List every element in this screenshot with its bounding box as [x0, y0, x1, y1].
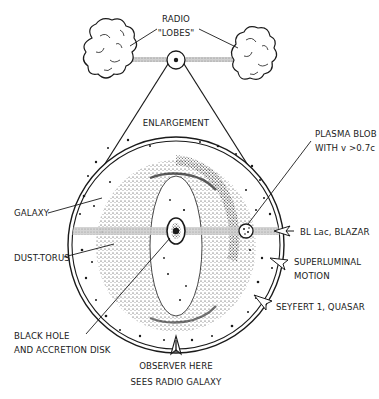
enlargement-label: ENLARGEMENT: [143, 118, 210, 128]
svg-text:SUPERLUMINAL: SUPERLUMINAL: [294, 257, 361, 267]
galaxy-label: GALAXY: [14, 208, 50, 218]
radio-lobes-label: RADIO "LOBES": [158, 14, 195, 38]
plasma-blob: [239, 224, 253, 238]
svg-text:"LOBES": "LOBES": [158, 28, 195, 38]
svg-text:WITH v >0.7c: WITH v >0.7c: [315, 143, 375, 153]
svg-text:BLACK HOLE: BLACK HOLE: [14, 331, 69, 341]
radio-lobes-pointer-right: [199, 29, 238, 48]
radio-lobe-right: [231, 27, 276, 80]
svg-text:RADIO: RADIO: [162, 14, 190, 24]
superluminal-label: SUPERLUMINAL MOTION: [294, 257, 361, 281]
svg-text:SEES RADIO GALAXY: SEES RADIO GALAXY: [131, 377, 223, 387]
torus-inner-cavity: [150, 176, 202, 316]
radio-lobe-left: [83, 19, 136, 78]
dust-torus-label: DUST-TORUS: [14, 253, 70, 263]
svg-text:AND ACCRETION DISK: AND ACCRETION DISK: [14, 345, 111, 355]
observer-label: OBSERVER HERE SEES RADIO GALAXY: [131, 361, 223, 387]
core-circle: [167, 51, 185, 69]
black-hole-label: BLACK HOLE AND ACCRETION DISK: [14, 331, 111, 355]
bl-lac-label: BL Lac, BLAZAR: [300, 227, 370, 237]
svg-text:MOTION: MOTION: [294, 271, 330, 281]
svg-text:PLASMA BLOB: PLASMA BLOB: [315, 129, 377, 139]
black-hole: [167, 218, 185, 244]
seyfert-label: SEYFERT 1, QUASAR: [276, 302, 365, 312]
plasma-blob-label: PLASMA BLOB WITH v >0.7c: [315, 129, 377, 153]
svg-text:OBSERVER HERE: OBSERVER HERE: [139, 361, 213, 371]
agn-diagram: RADIO "LOBES" ENLARGEMENT: [0, 0, 379, 399]
